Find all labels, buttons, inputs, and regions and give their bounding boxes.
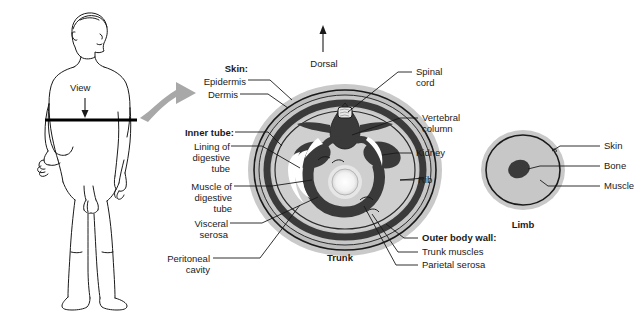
spinal-cord-shape: [338, 107, 352, 118]
label-limb-skin: Skin: [604, 140, 622, 151]
trunk-caption: Trunk: [305, 252, 375, 263]
label-spinal-cord: Spinal cord: [416, 66, 442, 88]
label-trunk-muscles: Trunk muscles: [422, 246, 483, 257]
label-inner-tube-heading: Inner tube:: [150, 127, 234, 138]
label-muscle-of-digestive-tube: Muscle of digestive tube: [158, 181, 232, 214]
pointer-arrow-gray: [140, 82, 196, 122]
diagram-canvas: [0, 0, 634, 322]
dorsal-label: Dorsal: [296, 58, 352, 69]
anatomy-diagram: View Dorsal Skin: Epidermis Dermis Inner…: [0, 0, 634, 322]
label-visceral-serosa: Visceral serosa: [158, 218, 228, 240]
limb-cross-section: [481, 130, 565, 210]
label-outer-body-wall-heading: Outer body wall:: [422, 232, 496, 243]
label-limb-muscle: Muscle: [604, 180, 634, 191]
label-dermis: Dermis: [168, 89, 238, 100]
dorsal-arrow: [320, 25, 327, 52]
label-parietal-serosa: Parietal serosa: [422, 259, 485, 270]
label-peritoneal-cavity: Peritoneal cavity: [140, 253, 210, 275]
label-kidney: Kidney: [416, 147, 445, 158]
trunk-cross-section: [248, 84, 442, 256]
label-limb-bone: Bone: [604, 160, 626, 171]
label-vertebral-column: Vertebral column: [422, 112, 460, 134]
limb-caption: Limb: [494, 219, 552, 230]
label-rib: Rib: [418, 174, 432, 185]
view-label: View: [70, 82, 90, 93]
label-lining-of-digestive-tube: Lining of digestive tube: [158, 141, 230, 174]
human-body-figure: [38, 13, 131, 310]
label-epidermis: Epidermis: [168, 76, 246, 87]
view-arrow: [82, 98, 89, 118]
label-skin-heading: Skin:: [168, 63, 248, 74]
